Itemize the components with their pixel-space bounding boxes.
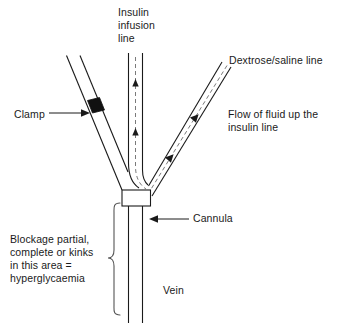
dextrose-tube-inner-wall [152,67,231,196]
label-flow-of-fluid-note: Flow of fluid up the insulin line [228,108,318,134]
cannula-leader [149,215,189,222]
blockage-area-brace [108,203,120,315]
label-blockage-note: Blockage partial, complete or kinks in t… [10,233,93,285]
insulin-tube-left-wall [129,53,140,188]
insulin-tube-right-wall [143,53,149,185]
clamp-leader [49,109,90,116]
dextrose-tube-outer-wall [149,62,223,186]
clamped-line-tube [67,56,129,191]
insulin-flow-arrow-lower [132,128,138,136]
insulin-infusion-tube [129,53,149,189]
label-insulin-infusion-line: Insulin infusion line [118,6,155,45]
insulin-flow-arrow-upper [132,79,138,87]
cannula-hub [122,190,151,206]
label-vein: Vein [163,284,184,297]
label-dextrose-saline-line: Dextrose/saline line [229,54,323,67]
cannula-tube [129,206,143,323]
diagram-root: Insulin infusion line Dextrose/saline li… [0,0,347,323]
label-clamp: Clamp [14,108,45,121]
dextrose-saline-tube [149,62,232,196]
dextrose-flow-dashed-line [151,66,228,191]
label-cannula: Cannula [193,212,233,225]
cannula-leader-arrowhead [149,215,158,222]
insulin-flow-dashed-line [136,57,147,189]
clamped-tube-left-wall [67,56,123,191]
clamp-marker [88,98,105,114]
